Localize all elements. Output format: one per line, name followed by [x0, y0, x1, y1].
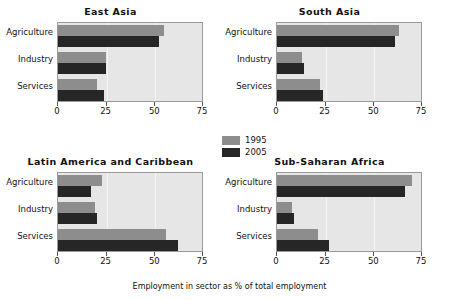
- legend-item-2005: 2005: [222, 147, 292, 158]
- x-tick-50: 50: [358, 256, 388, 266]
- x-axis: 0 25 50 75: [57, 102, 203, 124]
- x-tick-0: 0: [42, 256, 72, 266]
- bar-1995-services: [58, 229, 166, 240]
- bar-1995-agriculture: [277, 25, 399, 36]
- y-axis-label-services: Services: [0, 231, 53, 241]
- y-axis-label-agriculture: Agriculture: [0, 177, 53, 187]
- plot-area: [276, 22, 422, 102]
- y-axis-labels: Agriculture Industry Services: [0, 22, 53, 102]
- chart-panel-latin-america-and-caribbean: Latin America and Caribbean Agriculture …: [0, 154, 221, 288]
- x-axis: 0 25 50 75: [276, 102, 422, 124]
- bar-2005-services: [277, 240, 329, 251]
- y-axis-labels: Agriculture Industry Services: [0, 172, 53, 252]
- legend-label-2005: 2005: [245, 147, 267, 157]
- chart-panel-south-asia: South Asia Agriculture Industry Services: [219, 4, 440, 138]
- legend-swatch-1995-icon: [222, 136, 240, 145]
- legend-label-1995: 1995: [245, 135, 267, 145]
- y-axis-label-services: Services: [219, 81, 272, 91]
- bar-1995-services: [277, 79, 320, 90]
- x-tick-50: 50: [139, 256, 169, 266]
- y-axis-labels: Agriculture Industry Services: [219, 172, 272, 252]
- plot-area: [276, 172, 422, 252]
- chart-figure: East Asia Agriculture Industry Services: [0, 0, 459, 300]
- plot-area: [57, 172, 203, 252]
- chart-panel-east-asia: East Asia Agriculture Industry Services: [0, 4, 221, 138]
- x-tick-0: 0: [261, 106, 291, 116]
- y-axis-label-industry: Industry: [0, 204, 53, 214]
- bar-2005-services: [58, 240, 178, 251]
- x-axis-title: Employment in sector as % of total emplo…: [0, 282, 459, 291]
- y-axis-label-services: Services: [0, 81, 53, 91]
- bar-1995-agriculture: [277, 175, 412, 186]
- y-axis-label-industry: Industry: [0, 54, 53, 64]
- bar-2005-industry: [58, 63, 106, 74]
- bar-2005-agriculture: [58, 36, 159, 47]
- x-tick-75: 75: [187, 106, 217, 116]
- bar-1995-services: [277, 229, 318, 240]
- y-axis-label-agriculture: Agriculture: [219, 177, 272, 187]
- y-axis-label-agriculture: Agriculture: [0, 27, 53, 37]
- x-tick-0: 0: [261, 256, 291, 266]
- bar-1995-industry: [58, 202, 95, 213]
- x-tick-75: 75: [187, 256, 217, 266]
- bar-2005-agriculture: [58, 186, 91, 197]
- legend-swatch-2005-icon: [222, 148, 240, 157]
- panel-title: South Asia: [219, 6, 440, 17]
- x-tick-50: 50: [139, 106, 169, 116]
- panel-title: Latin America and Caribbean: [0, 156, 221, 167]
- bar-2005-services: [58, 90, 104, 101]
- chart-panel-sub-saharan-africa: Sub-Saharan Africa Agriculture Industry …: [219, 154, 440, 288]
- y-axis-label-services: Services: [219, 231, 272, 241]
- x-tick-25: 25: [91, 106, 121, 116]
- y-axis-labels: Agriculture Industry Services: [219, 22, 272, 102]
- panel-title: East Asia: [0, 6, 221, 17]
- chart-legend: 1995 2005: [222, 135, 292, 161]
- bar-1995-agriculture: [58, 175, 102, 186]
- legend-item-1995: 1995: [222, 135, 292, 146]
- plot-area: [57, 22, 203, 102]
- x-tick-75: 75: [406, 256, 436, 266]
- x-tick-25: 25: [310, 106, 340, 116]
- bar-1995-industry: [277, 52, 302, 63]
- bar-1995-industry: [277, 202, 292, 213]
- bar-1995-industry: [58, 52, 106, 63]
- y-axis-label-agriculture: Agriculture: [219, 27, 272, 37]
- bar-2005-agriculture: [277, 186, 405, 197]
- y-axis-label-industry: Industry: [219, 204, 272, 214]
- x-tick-50: 50: [358, 106, 388, 116]
- x-axis: 0 25 50 75: [276, 252, 422, 274]
- bar-2005-industry: [277, 213, 294, 224]
- x-axis: 0 25 50 75: [57, 252, 203, 274]
- x-tick-25: 25: [91, 256, 121, 266]
- x-tick-0: 0: [42, 106, 72, 116]
- bar-2005-industry: [58, 213, 97, 224]
- x-tick-25: 25: [310, 256, 340, 266]
- bar-2005-industry: [277, 63, 304, 74]
- bar-2005-services: [277, 90, 323, 101]
- x-tick-75: 75: [406, 106, 436, 116]
- y-axis-label-industry: Industry: [219, 54, 272, 64]
- bar-1995-agriculture: [58, 25, 164, 36]
- bar-1995-services: [58, 79, 97, 90]
- bar-2005-agriculture: [277, 36, 395, 47]
